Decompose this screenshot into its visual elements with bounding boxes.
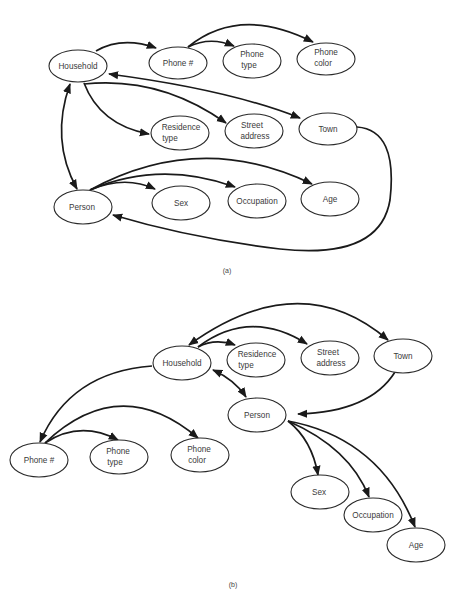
edge-household-residence-type (84, 83, 149, 134)
node-label-line2: address (316, 359, 345, 368)
node-b-phone-color: Phone color (171, 438, 229, 472)
edge-person-age (90, 158, 312, 190)
node-label: Household (162, 359, 202, 368)
node-label: Phone # (163, 59, 194, 68)
node-a-residence-type: Residence type (151, 116, 209, 150)
node-label: Household (58, 62, 98, 71)
node-b-person: Person (228, 398, 286, 432)
node-label: Age (323, 195, 338, 204)
node-label: Occupation (352, 511, 394, 520)
node-label: Age (409, 541, 424, 550)
node-a-phone-type: Phone type (223, 44, 281, 78)
node-b-town: Town (374, 339, 432, 373)
node-label: Occupation (236, 197, 278, 206)
node-label: Town (393, 352, 413, 361)
node-label-line1: Street (241, 121, 264, 130)
node-label-line2: address (240, 132, 269, 141)
node-label: Person (244, 411, 270, 420)
node-a-age: Age (301, 182, 359, 216)
node-label-line2: type (162, 134, 178, 143)
node-a-occupation: Occupation (228, 184, 286, 218)
caption-b: (b) (229, 581, 238, 589)
caption-a: (a) (223, 267, 232, 275)
node-a-phone-color: Phone color (297, 43, 355, 75)
node-label: Person (69, 203, 95, 212)
edge-phone-num-phone-color (45, 406, 198, 443)
node-a-person: Person (54, 190, 112, 224)
panel-a: Household Phone # Phone type Phone color… (49, 25, 391, 275)
node-b-residence-type: Residence type (227, 343, 285, 377)
node-label-line1: Phone (187, 445, 211, 454)
edge-town-person (298, 372, 395, 414)
node-b-occupation: Occupation (344, 498, 402, 532)
node-label-line2: type (241, 61, 257, 70)
node-label-line2: type (238, 361, 254, 370)
edge-town-household (189, 304, 388, 345)
node-a-town: Town (299, 113, 357, 145)
edge-town-household (109, 74, 300, 118)
node-a-sex: Sex (152, 186, 210, 220)
diagram-canvas: Household Phone # Phone type Phone color… (0, 0, 462, 597)
node-b-household: Household (153, 346, 211, 380)
node-b-age: Age (387, 528, 445, 562)
node-a-street-address: Street address (225, 114, 283, 148)
node-label-line1: Residence (238, 350, 277, 359)
node-b-sex: Sex (291, 475, 349, 509)
node-label-line1: Phone (240, 50, 264, 59)
node-label: Sex (174, 199, 188, 208)
node-label-line1: Phone (106, 447, 130, 456)
node-label: Phone # (24, 456, 55, 465)
node-label: Town (318, 125, 338, 134)
node-b-street-address: Street address (301, 341, 359, 375)
edge-household-person (61, 84, 77, 189)
node-label-line1: Street (317, 348, 340, 357)
node-label-line1: Phone (314, 48, 338, 57)
node-label-line2: color (314, 59, 332, 68)
node-b-phone-num: Phone # (10, 443, 68, 477)
edge-household-phone-num (96, 43, 156, 51)
node-label-line2: type (107, 458, 123, 467)
panel-b: Household Residence type Street address … (10, 304, 445, 589)
edge-household-phone-num (40, 366, 152, 442)
node-label-line1: Residence (162, 123, 201, 132)
edge-household-street-address (84, 83, 226, 123)
node-label-line2: color (188, 456, 206, 465)
node-b-phone-type: Phone type (90, 440, 148, 474)
node-a-phone-num: Phone # (149, 47, 207, 79)
node-a-household: Household (49, 50, 107, 82)
node-label: Sex (312, 488, 326, 497)
edge-person-occupation (90, 174, 235, 190)
